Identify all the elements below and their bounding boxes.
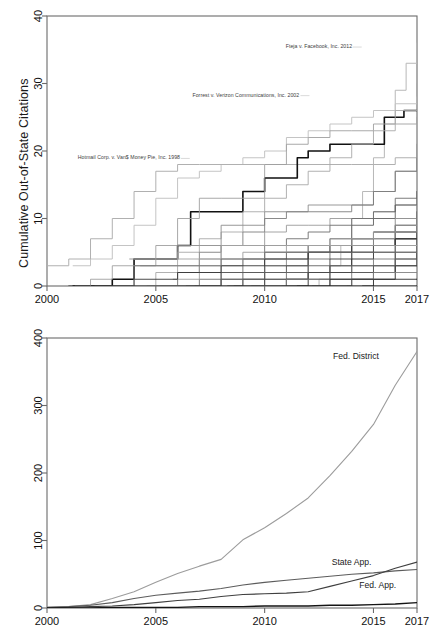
plot-frame <box>47 338 417 608</box>
case-annotation: Fteja v. Facebook, Inc. 2012 <box>286 43 352 49</box>
bottom-bleed-text <box>0 634 439 644</box>
y-tick-label: 40 <box>32 10 44 22</box>
y-tick-label: 0 <box>32 283 44 289</box>
x-tick-label: 2010 <box>252 293 276 305</box>
x-tick-label: 2005 <box>144 615 168 627</box>
series-group <box>47 352 417 609</box>
series-line <box>95 252 417 286</box>
series-line <box>228 266 417 286</box>
series-line <box>132 84 417 287</box>
y-tick-label: 300 <box>32 396 44 414</box>
x-tick-label: 2000 <box>35 293 59 305</box>
x-tick-label: 2010 <box>252 615 276 627</box>
series-label-fed-district: Fed. District <box>333 351 379 361</box>
x-tick-label: 2005 <box>144 293 168 305</box>
series-line <box>75 117 417 286</box>
x-tick-label: 2015 <box>361 615 385 627</box>
series-label-fed-app: Fed. App. <box>359 580 396 590</box>
x-tick-label: 2015 <box>361 293 385 305</box>
y-tick-label: 20 <box>32 145 44 157</box>
plot-area-top: 01020304020002005201020152017 <box>0 0 439 322</box>
series-line <box>73 97 417 266</box>
y-tick-label: 400 <box>32 329 44 347</box>
y-tick-label: 100 <box>32 531 44 549</box>
chart-panel-bottom: Cumulative Out-of-State Citations 010020… <box>0 322 439 644</box>
series-line <box>160 158 417 286</box>
series-line <box>141 205 417 266</box>
x-tick-label: 2017 <box>405 615 429 627</box>
y-tick-label: 10 <box>32 212 44 224</box>
series-line <box>363 252 417 286</box>
chart-panel-top: Cumulative Out-of-State Citations 010203… <box>0 0 439 322</box>
y-tick-label: 0 <box>32 605 44 611</box>
x-tick-label: 2000 <box>35 615 59 627</box>
case-annotation: Forrest v. Verizon Communications, Inc. … <box>192 92 299 98</box>
case-annotation: Hotmail Corp. v. Van$ Money Pie, Inc. 19… <box>78 154 180 160</box>
x-tick-label: 2017 <box>405 293 429 305</box>
y-tick-label: 30 <box>32 77 44 89</box>
series-group <box>47 43 417 286</box>
y-tick-label: 200 <box>32 464 44 482</box>
series-label-state-app: State App. <box>332 557 372 567</box>
series-line <box>234 212 417 286</box>
plot-area-bottom: 010020030040020002005201020152017 <box>0 322 439 644</box>
series-line <box>47 352 417 608</box>
